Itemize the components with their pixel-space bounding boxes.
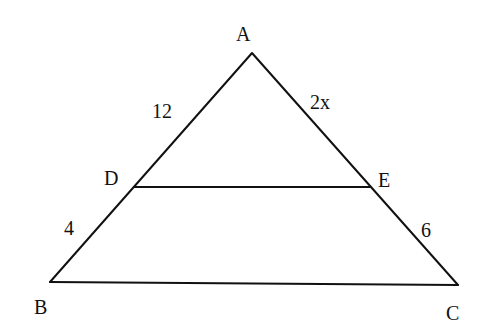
vertex-label-d: D (104, 167, 118, 189)
segment-label-ad: 12 (152, 100, 172, 122)
segment-label-db: 4 (64, 217, 74, 239)
segment-label-ae: 2x (310, 91, 330, 113)
vertex-label-a: A (236, 23, 251, 45)
vertex-label-c: C (446, 302, 459, 324)
vertex-label-b: B (34, 296, 47, 318)
vertex-label-e: E (378, 169, 390, 191)
side-bc (50, 282, 458, 285)
triangle-diagram: A D E B C 12 2x 4 6 (0, 0, 486, 335)
segment-label-ec: 6 (421, 219, 431, 241)
